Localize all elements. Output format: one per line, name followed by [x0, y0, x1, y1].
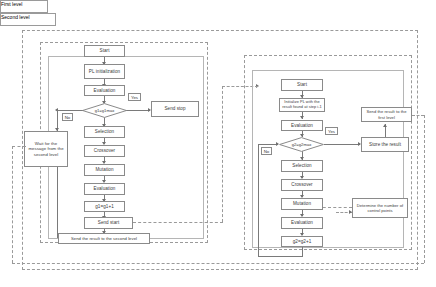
node-second-init[interactable]: Initialize PL with the result found at s… [279, 98, 325, 112]
second-decision-label: g2=g2max [292, 142, 312, 147]
node-second-send-result[interactable]: Send the result to the first level [361, 107, 412, 122]
node-wait-message[interactable]: Wait for the message from the second lev… [24, 131, 68, 167]
node-first-send-result[interactable]: Send the result to the second level [58, 233, 150, 244]
node-store-result[interactable]: Store the result [361, 137, 409, 152]
dashed-second-to-first-bottom [12, 263, 424, 264]
node-second-evaluation-bottom[interactable]: Evaluation [281, 217, 323, 229]
dashed-sendstart-up [222, 86, 223, 222]
arrow-store-to-send [383, 124, 387, 127]
arrow-s2-init-eval [300, 116, 304, 119]
first-level-inner-region [48, 56, 204, 239]
connector-s2-loop-down [302, 247, 303, 256]
node-first-start[interactable]: Start [84, 45, 125, 57]
connector-yes-sendstop [123, 110, 150, 111]
second-level-title: Second level [0, 13, 56, 26]
node-second-increment[interactable]: g2=g2+1 [281, 236, 323, 247]
connector-s2-yes [324, 144, 360, 145]
second-level-inner-region [252, 70, 404, 248]
node-send-stop[interactable]: Send stop [151, 101, 199, 117]
node-first-crossover[interactable]: Crossover [84, 145, 125, 157]
dashed-second-to-first-up [12, 146, 13, 263]
node-first-selection[interactable]: Selection [84, 126, 125, 138]
second-yes-label: Yes [325, 127, 338, 135]
dashed-sendstart-right [133, 222, 223, 223]
dashed-second-to-first-in [12, 146, 26, 147]
first-no-label: No [62, 113, 73, 121]
first-level-title: First level [0, 0, 48, 13]
node-second-decision[interactable]: g2=g2max [279, 137, 324, 152]
connector-s2-loop-up [258, 144, 259, 256]
first-decision-label: g1=g1max [95, 108, 115, 113]
node-second-evaluation-top[interactable]: Evaluation [281, 120, 323, 131]
second-no-label: No [261, 147, 272, 155]
first-yes-label: Yes [128, 93, 141, 101]
node-first-evaluation-top[interactable]: Evaluation [84, 85, 125, 96]
node-first-evaluation-bottom[interactable]: Evaluation [84, 183, 125, 195]
flowchart-canvas: First level Start PL initialization Eval… [0, 0, 436, 287]
node-control-points[interactable]: Determine the number of control points [352, 198, 408, 218]
node-second-crossover[interactable]: Crossover [281, 179, 323, 191]
dashed-second-to-first [412, 115, 424, 116]
node-second-start[interactable]: Start [281, 79, 323, 91]
node-first-mutation[interactable]: Mutation [84, 164, 125, 176]
dashed-second-to-first-down [424, 115, 425, 263]
node-first-increment[interactable]: g1=g1+1 [84, 201, 125, 212]
connector-wait-down [57, 167, 58, 237]
connector-s2-loop-bottom [258, 256, 303, 257]
node-first-decision[interactable]: g1=g1max [82, 103, 127, 118]
node-send-start[interactable]: Send start [84, 217, 133, 229]
node-second-mutation[interactable]: Mutation [281, 198, 323, 210]
connector-s2-loop-top [258, 144, 278, 145]
node-first-init[interactable]: PL initialization [84, 64, 125, 79]
node-second-selection[interactable]: Selection [281, 160, 323, 172]
